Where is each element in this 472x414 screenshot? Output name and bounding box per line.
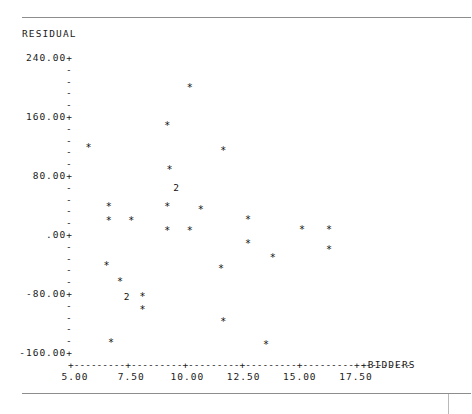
data-point: *: [128, 216, 134, 226]
y-axis-tick-label: -160.00+: [0, 347, 75, 358]
residual-plot-screen: RESIDUAL 240.00+----160.00+----80.00+---…: [0, 0, 472, 414]
y-axis-minor-tick: -: [66, 146, 72, 157]
y-axis-minor-tick: -: [66, 99, 72, 110]
y-axis-minor-tick: -: [66, 311, 72, 322]
y-axis-minor-tick: -: [66, 134, 72, 145]
y-axis-minor-tick: -: [66, 217, 72, 228]
data-point: *: [326, 245, 332, 255]
y-axis-tick-label: .00+: [0, 229, 75, 240]
data-point: *: [299, 225, 305, 235]
top-divider-rule: [22, 17, 471, 18]
y-axis-tick-label: -80.00+: [0, 288, 75, 299]
bottom-divider-rule: [22, 393, 471, 394]
data-point: *: [187, 83, 193, 93]
data-point: *: [220, 146, 226, 156]
y-axis-minor-tick: -: [66, 335, 72, 346]
y-axis-minor-tick: -: [66, 205, 72, 216]
data-point: *: [263, 340, 269, 350]
data-point-multi: 2: [124, 293, 130, 303]
y-axis-tick-label: 80.00+: [0, 170, 75, 181]
y-axis-minor-tick: -: [66, 158, 72, 169]
y-axis-minor-tick: -: [66, 240, 72, 251]
data-point: *: [164, 121, 170, 131]
data-point: *: [106, 216, 112, 226]
y-axis-minor-tick: -: [66, 181, 72, 192]
x-axis-line: +---------+---------+---------+---------…: [68, 359, 411, 370]
data-point: *: [187, 226, 193, 236]
data-point: *: [245, 239, 251, 249]
data-point: *: [85, 143, 91, 153]
y-axis-minor-tick: -: [66, 87, 72, 98]
data-point: *: [103, 261, 109, 271]
y-axis-minor-tick: -: [66, 75, 72, 86]
y-axis-minor-tick: -: [66, 63, 72, 74]
y-axis-minor-tick: -: [66, 252, 72, 263]
x-axis-tick-label: 12.50: [227, 371, 261, 382]
y-axis-tick-label: 240.00+: [0, 52, 75, 63]
x-axis-tick-label: 5.00: [62, 371, 89, 382]
data-point: *: [139, 292, 145, 302]
y-axis-minor-tick: -: [66, 323, 72, 334]
data-point: *: [326, 225, 332, 235]
data-point: *: [270, 253, 276, 263]
data-point: *: [218, 264, 224, 274]
y-axis-tick-label: 160.00+: [0, 111, 75, 122]
x-axis-tick-label: 15.00: [283, 371, 317, 382]
data-point: *: [220, 317, 226, 327]
data-point: *: [166, 165, 172, 175]
x-axis-tick-label: 7.50: [118, 371, 145, 382]
data-point-multi: 2: [173, 183, 179, 193]
data-point: *: [108, 338, 114, 348]
y-axis-minor-tick: -: [66, 122, 72, 133]
x-axis-tick-label: 17.50: [339, 371, 373, 382]
y-axis-minor-tick: -: [66, 193, 72, 204]
y-axis-title: RESIDUAL: [22, 28, 77, 39]
data-point: *: [245, 215, 251, 225]
data-point: *: [139, 305, 145, 315]
y-axis-minor-tick: -: [66, 264, 72, 275]
data-point: *: [164, 226, 170, 236]
data-point: *: [198, 205, 204, 215]
data-point: *: [117, 277, 123, 287]
right-edge-mark: [448, 394, 449, 414]
x-axis-tick-label: 10.00: [171, 371, 205, 382]
data-point: *: [164, 202, 170, 212]
y-axis-minor-tick: -: [66, 299, 72, 310]
data-point: *: [106, 202, 112, 212]
y-axis-minor-tick: -: [66, 276, 72, 287]
x-axis-title: +BIDDERS: [361, 359, 416, 370]
